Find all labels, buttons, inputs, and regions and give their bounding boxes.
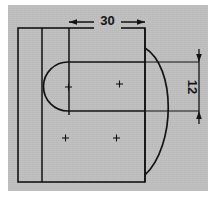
dimension-height-12: 12 (145, 49, 202, 124)
slot-outline (44, 62, 146, 111)
dimension-12-label: 12 (185, 80, 200, 94)
technical-drawing-svg: 30 12 (8, 5, 208, 191)
drawing-canvas: 30 12 (8, 5, 208, 191)
arrowhead-12-bottom (196, 111, 202, 119)
drawing-page: 30 12 (0, 0, 216, 198)
arrowhead-30-left (69, 19, 77, 25)
dimension-30-label: 30 (100, 13, 114, 28)
arrowhead-12-top (196, 54, 202, 62)
dimension-width-30: 30 (69, 13, 145, 29)
arrowhead-30-right (137, 19, 145, 25)
outer-plate-outline (18, 28, 145, 182)
